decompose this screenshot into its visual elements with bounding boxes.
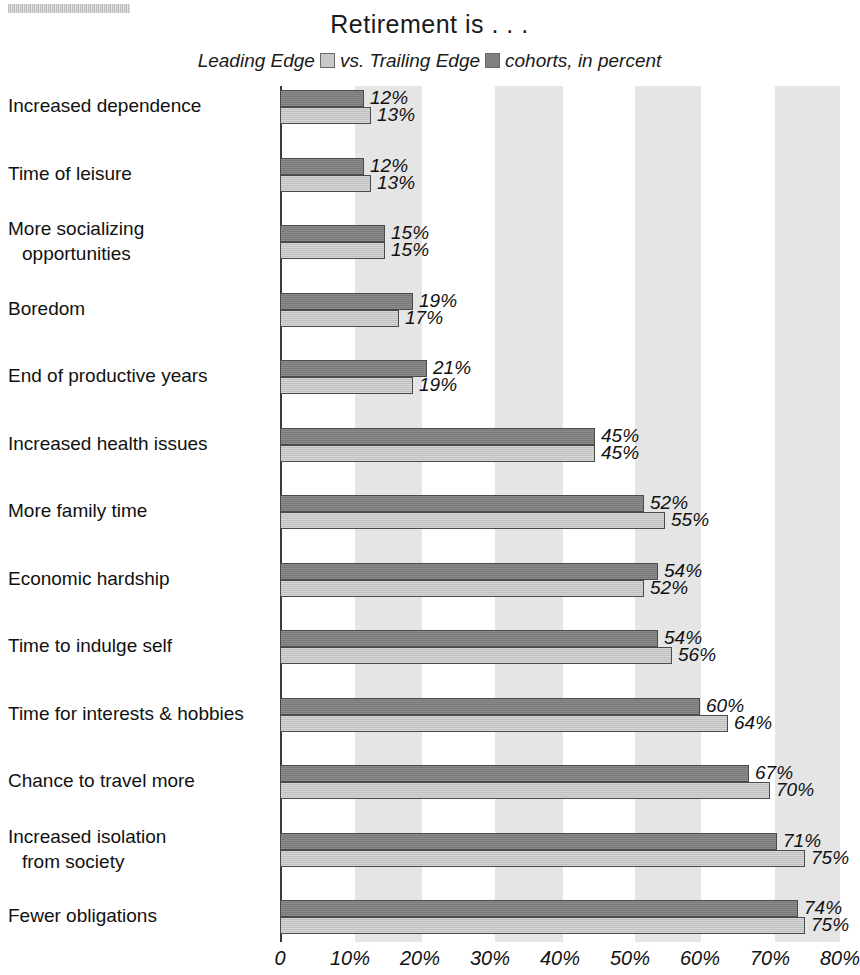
category-label: Fewer obligations (8, 903, 274, 928)
category-label-line1: More family time (8, 500, 147, 521)
category-label-line2: opportunities (8, 241, 274, 266)
bar-group: 71%75% (280, 833, 859, 867)
bar-value-label-leading-edge: 70% (776, 781, 814, 798)
bar-group: 60%64% (280, 698, 859, 732)
x-axis-tick-label: 20% (400, 947, 440, 970)
bar-group: 52%55% (280, 495, 859, 529)
x-axis-tick-label: 10% (330, 947, 370, 970)
category-label: Time of leisure (8, 161, 274, 186)
bar-group: 12%13% (280, 90, 859, 124)
chart-legend: Leading Edgevs. Trailing Edgecohorts, in… (0, 50, 859, 72)
bar-leading-edge[interactable] (280, 377, 413, 394)
legend-swatch-trailing-edge (485, 53, 500, 68)
bar-value-label-trailing-edge: 60% (706, 697, 744, 714)
category-label-line1: More socializing (8, 218, 144, 239)
category-label-line1: Chance to travel more (8, 770, 195, 791)
bar-trailing-edge[interactable] (280, 225, 385, 242)
bar-trailing-edge[interactable] (280, 90, 364, 107)
bar-group: 67%70% (280, 765, 859, 799)
bar-trailing-edge[interactable] (280, 293, 413, 310)
x-axis: 010%20%30%40%50%60%70%80% (280, 941, 859, 943)
x-axis-tick-label: 70% (750, 947, 790, 970)
bar-trailing-edge[interactable] (280, 765, 749, 782)
bar-leading-edge[interactable] (280, 580, 644, 597)
bar-leading-edge[interactable] (280, 647, 672, 664)
category-label-line1: Time for interests & hobbies (8, 703, 244, 724)
bar-leading-edge[interactable] (280, 242, 385, 259)
legend-label-leading-edge: Leading Edge (198, 50, 315, 71)
bar-trailing-edge[interactable] (280, 630, 658, 647)
category-label: Chance to travel more (8, 768, 274, 793)
bar-value-label-leading-edge: 15% (391, 241, 429, 258)
x-axis-tick-0 (280, 934, 282, 942)
legend-swatch-leading-edge (320, 53, 335, 68)
category-label-line1: End of productive years (8, 365, 208, 386)
plot-area: 12%13%12%13%15%15%19%17%21%19%45%45%52%5… (280, 86, 859, 942)
legend-label-cohorts: cohorts, in percent (505, 50, 661, 71)
bar-trailing-edge[interactable] (280, 158, 364, 175)
category-label: Economic hardship (8, 566, 274, 591)
category-label: Time for interests & hobbies (8, 701, 274, 726)
x-axis-tick-label: 30% (470, 947, 510, 970)
bar-leading-edge[interactable] (280, 850, 805, 867)
bar-group: 12%13% (280, 158, 859, 192)
chart-title: Retirement is . . . (0, 10, 859, 39)
bar-value-label-leading-edge: 17% (405, 309, 443, 326)
bar-leading-edge[interactable] (280, 175, 371, 192)
bar-trailing-edge[interactable] (280, 360, 427, 377)
bar-group: 74%75% (280, 900, 859, 934)
bar-value-label-leading-edge: 13% (377, 174, 415, 191)
category-label: Increased dependence (8, 93, 274, 118)
bar-trailing-edge[interactable] (280, 428, 595, 445)
bar-leading-edge[interactable] (280, 917, 805, 934)
bar-leading-edge[interactable] (280, 512, 665, 529)
bar-group: 54%52% (280, 563, 859, 597)
category-label: Increased isolationfrom society (8, 824, 274, 874)
bar-value-label-leading-edge: 19% (419, 376, 457, 393)
category-label-line1: Time to indulge self (8, 635, 172, 656)
category-label-line2: from society (8, 849, 274, 874)
bar-group: 45%45% (280, 428, 859, 462)
bar-group: 21%19% (280, 360, 859, 394)
category-label: Boredom (8, 296, 274, 321)
bar-value-label-leading-edge: 56% (678, 646, 716, 663)
category-label-line1: Increased isolation (8, 826, 166, 847)
bar-value-label-leading-edge: 52% (650, 579, 688, 596)
bar-trailing-edge[interactable] (280, 698, 700, 715)
x-axis-tick-label: 80% (820, 947, 860, 970)
bar-trailing-edge[interactable] (280, 833, 777, 850)
bar-leading-edge[interactable] (280, 782, 770, 799)
bar-leading-edge[interactable] (280, 715, 728, 732)
bar-leading-edge[interactable] (280, 107, 371, 124)
bar-leading-edge[interactable] (280, 310, 399, 327)
bar-value-label-leading-edge: 55% (671, 511, 709, 528)
bar-value-label-trailing-edge: 12% (370, 157, 408, 174)
category-label-line1: Increased health issues (8, 433, 208, 454)
bar-group: 54%56% (280, 630, 859, 664)
category-label-line1: Boredom (8, 298, 85, 319)
category-label: Time to indulge self (8, 633, 274, 658)
bar-value-label-trailing-edge: 45% (601, 427, 639, 444)
category-label-line1: Increased dependence (8, 95, 201, 116)
x-axis-tick-label: 60% (680, 947, 720, 970)
category-label-line1: Economic hardship (8, 568, 170, 589)
bar-value-label-leading-edge: 75% (811, 849, 849, 866)
bar-value-label-trailing-edge: 54% (664, 562, 702, 579)
x-axis-tick-label: 50% (610, 947, 650, 970)
category-label: More family time (8, 498, 274, 523)
bar-group: 19%17% (280, 293, 859, 327)
category-label: Increased health issues (8, 431, 274, 456)
x-axis-tick-label: 40% (540, 947, 580, 970)
bar-value-label-leading-edge: 64% (734, 714, 772, 731)
bar-value-label-leading-edge: 13% (377, 106, 415, 123)
bar-leading-edge[interactable] (280, 445, 595, 462)
category-label: End of productive years (8, 363, 274, 388)
legend-label-vs-trailing-edge: vs. Trailing Edge (340, 50, 480, 71)
bar-group: 15%15% (280, 225, 859, 259)
bar-value-label-leading-edge: 45% (601, 444, 639, 461)
bar-value-label-leading-edge: 75% (811, 916, 849, 933)
bar-trailing-edge[interactable] (280, 900, 798, 917)
bar-trailing-edge[interactable] (280, 495, 644, 512)
bar-trailing-edge[interactable] (280, 563, 658, 580)
bar-value-label-trailing-edge: 71% (783, 832, 821, 849)
